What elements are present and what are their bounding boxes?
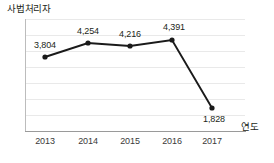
x-tick-label: 2017 [202, 136, 222, 147]
data-label: 1,828 [203, 114, 225, 124]
plot-area: 3,804 4,254 4,216 4,391 1,828 [25, 19, 245, 132]
data-point [42, 54, 47, 59]
x-axis-title: 연도 [241, 121, 259, 133]
data-label: 4,391 [163, 22, 185, 32]
line-chart: 사법처리자 3,804 4,254 4,216 4,391 1,828 2013… [0, 0, 274, 163]
data-label: 3,804 [34, 40, 56, 50]
x-tick-label: 2016 [162, 136, 182, 147]
data-label: 4,216 [119, 29, 141, 39]
x-tick-label: 2015 [120, 136, 140, 147]
y-axis-title: 사법처리자 [7, 3, 51, 15]
data-point [85, 40, 90, 45]
series-line [45, 40, 212, 108]
x-axis-line [25, 131, 246, 132]
x-tick-label: 2014 [78, 136, 98, 147]
data-label: 4,254 [77, 26, 99, 36]
data-point [209, 105, 214, 110]
data-point [127, 43, 132, 48]
data-point [169, 37, 174, 42]
x-tick-label: 2013 [35, 136, 55, 147]
